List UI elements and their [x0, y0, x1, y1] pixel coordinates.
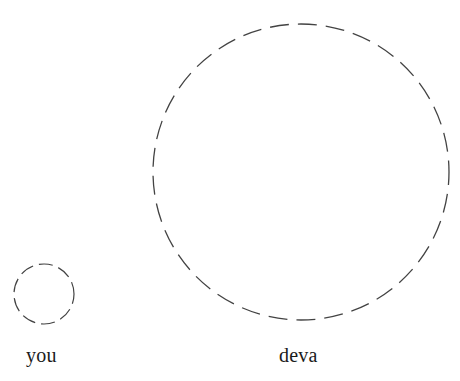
size-comparison-figure: you deva — [0, 0, 460, 381]
figure-background — [0, 0, 460, 381]
circle-label-deva: deva — [279, 345, 318, 365]
figure-canvas — [0, 0, 460, 381]
circle-label-you: you — [26, 345, 57, 365]
